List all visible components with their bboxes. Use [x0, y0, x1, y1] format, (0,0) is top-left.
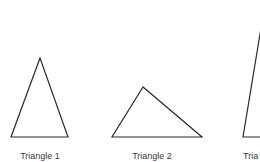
triangle-1-label: Triangle 1	[20, 151, 60, 161]
triangle-2-shape	[112, 87, 202, 137]
triangle-3-shape	[243, 22, 260, 137]
triangle-2-label: Triangle 2	[132, 151, 172, 161]
triangle-1-shape	[11, 58, 68, 137]
triangle-3-label: Tria	[243, 151, 258, 161]
triangles-diagram	[0, 0, 260, 162]
